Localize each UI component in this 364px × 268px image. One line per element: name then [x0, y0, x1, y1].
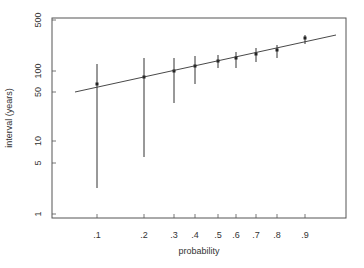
x-axis-title: probability	[178, 246, 220, 256]
x-tick-label: .3	[170, 230, 178, 240]
x-tick-label: .7	[252, 230, 260, 240]
error-bars	[96, 35, 307, 188]
error-bar	[194, 56, 197, 84]
error-bar	[96, 64, 99, 188]
error-bar	[255, 48, 258, 62]
chart: 151050100500 .1.2.3.4.5.6.7.8.9 probabil…	[0, 0, 364, 268]
y-tick-label: 50	[33, 87, 43, 97]
plot-frame	[52, 18, 346, 218]
y-axis-title: interval (years)	[4, 88, 14, 148]
error-bar	[304, 35, 307, 44]
error-bar	[276, 45, 279, 58]
y-tick-label: 100	[33, 63, 43, 78]
x-tick-label: .5	[214, 230, 222, 240]
y-tick-label: 1	[33, 211, 43, 216]
error-bar	[235, 52, 238, 68]
y-tick-label: 500	[33, 12, 43, 27]
y-tick-label: 10	[33, 136, 43, 146]
x-tick-label: .6	[232, 230, 240, 240]
error-bar	[173, 58, 176, 103]
y-tick-label: 5	[33, 160, 43, 165]
x-tick-label: .1	[93, 230, 101, 240]
data-point	[96, 83, 99, 86]
error-bar	[143, 58, 146, 157]
data-point	[304, 37, 307, 40]
error-bar	[217, 55, 220, 68]
data-point	[276, 49, 279, 52]
x-tick-label: .4	[191, 230, 199, 240]
x-tick-label: .8	[273, 230, 281, 240]
x-tick-label: .2	[140, 230, 148, 240]
y-axis: 151050100500	[33, 12, 56, 216]
x-tick-label: .9	[301, 230, 309, 240]
fitted-line	[75, 35, 336, 92]
